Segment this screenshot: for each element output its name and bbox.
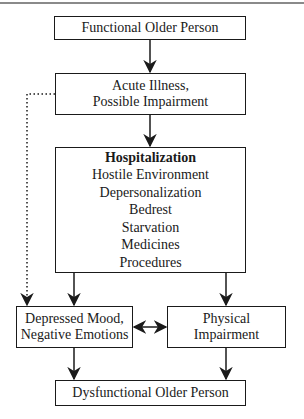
node-hospitalization: Hospitalization Hostile Environment Depe… (55, 147, 246, 273)
hospitalization-item: Starvation (122, 219, 180, 237)
hospitalization-item: Procedures (119, 254, 181, 272)
node-functional-older-person: Functional Older Person (54, 16, 246, 40)
node-dysfunctional-older-person: Dysfunctional Older Person (55, 380, 246, 406)
node-label-line-1: Physical (203, 311, 250, 327)
edge-acute-depressed-dotted (27, 94, 55, 305)
hospitalization-item: Bedrest (129, 201, 172, 219)
node-title: Hospitalization (105, 149, 196, 167)
node-label-line-1: Acute Illness, (112, 78, 189, 94)
node-label: Dysfunctional Older Person (72, 385, 228, 401)
node-label-line-2: Possible Impairment (93, 94, 209, 110)
node-label: Functional Older Person (82, 20, 219, 36)
node-acute-illness: Acute Illness, Possible Impairment (55, 73, 246, 115)
hospitalization-item: Hostile Environment (92, 166, 209, 184)
node-depressed-mood: Depressed Mood, Negative Emotions (16, 306, 133, 348)
hospitalization-item: Medicines (121, 236, 179, 254)
node-label-line-2: Negative Emotions (21, 327, 129, 343)
node-label-line-2: Impairment (194, 327, 259, 343)
node-physical-impairment: Physical Impairment (167, 306, 286, 348)
node-label-line-1: Depressed Mood, (25, 311, 124, 327)
hospitalization-item: Depersonalization (100, 184, 202, 202)
